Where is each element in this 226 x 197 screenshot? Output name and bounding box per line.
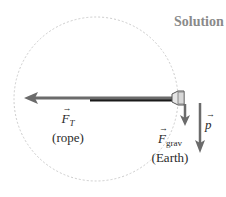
tension-force-arrow xyxy=(24,92,180,104)
momentum-vector-arrow xyxy=(195,103,205,153)
gravity-source: (Earth) xyxy=(150,151,190,164)
object-ball xyxy=(172,91,184,105)
tension-symbol: →F xyxy=(62,111,70,126)
momentum-label: →p xyxy=(205,116,212,132)
free-body-diagram xyxy=(0,0,226,197)
gravity-symbol: →F xyxy=(158,131,166,146)
tension-force-label: →FT (rope) xyxy=(50,110,86,144)
tension-source: (rope) xyxy=(50,131,86,144)
gravity-force-label: →Fgrav (Earth) xyxy=(150,130,190,164)
momentum-symbol: →p xyxy=(205,117,212,132)
gravity-force-arrow xyxy=(180,104,190,126)
